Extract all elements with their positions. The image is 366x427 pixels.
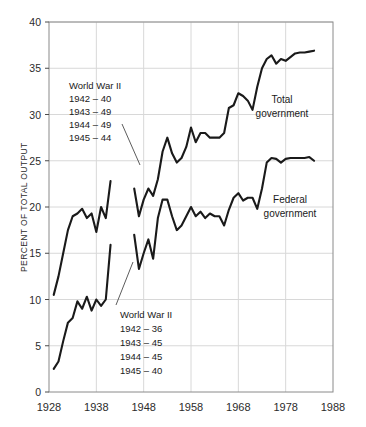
series-label-total-line2: government bbox=[256, 108, 309, 119]
series-label-federal-line1: Federal bbox=[273, 194, 307, 205]
y-tick-label: 0 bbox=[35, 386, 41, 398]
x-tick-label: 1928 bbox=[37, 401, 61, 413]
annotation-total-row-1: 1942 – 40 bbox=[69, 93, 111, 104]
x-tick-label: 1948 bbox=[131, 401, 155, 413]
annotation-federal-row-1: 1942 – 36 bbox=[120, 323, 162, 334]
y-tick-label: 30 bbox=[29, 109, 41, 121]
annotation-total-row-4: 1945 – 44 bbox=[69, 132, 111, 143]
annotation-federal-row-4: 1945 – 40 bbox=[120, 365, 162, 376]
x-tick-label: 1938 bbox=[84, 401, 108, 413]
series-label-federal-line2: government bbox=[264, 208, 317, 219]
annotation-total-row-2: 1943 – 49 bbox=[69, 106, 111, 117]
annotation-total-row-3: 1944 – 49 bbox=[69, 119, 111, 130]
x-tick-label: 1978 bbox=[273, 401, 297, 413]
x-tick-label: 1968 bbox=[226, 401, 250, 413]
y-tick-label: 20 bbox=[29, 201, 41, 213]
y-tick-label: 25 bbox=[29, 155, 41, 167]
x-tick-label: 1988 bbox=[321, 401, 345, 413]
y-tick-label: 35 bbox=[29, 62, 41, 74]
chart-container: 0510152025303540 19281938194819581968197… bbox=[0, 0, 366, 427]
y-axis-title: PERCENT OF TOTAL OUTPUT bbox=[19, 142, 29, 272]
line-chart: 0510152025303540 19281938194819581968197… bbox=[0, 0, 366, 427]
x-tick-label: 1958 bbox=[179, 401, 203, 413]
annotation-federal-row-3: 1944 – 45 bbox=[120, 351, 162, 362]
annotation-federal-title: World War II bbox=[120, 309, 172, 320]
annotation-total-title: World War II bbox=[69, 80, 121, 91]
y-tick-label: 15 bbox=[29, 247, 41, 259]
y-tick-label: 5 bbox=[35, 340, 41, 352]
series-label-total-line1: Total bbox=[271, 94, 292, 105]
y-tick-label: 10 bbox=[29, 294, 41, 306]
annotation-federal-row-2: 1943 – 45 bbox=[120, 337, 162, 348]
y-tick-label: 40 bbox=[29, 16, 41, 28]
